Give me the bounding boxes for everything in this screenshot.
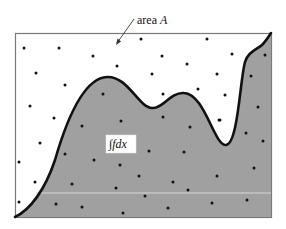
sample-point bbox=[29, 105, 32, 108]
sample-point bbox=[92, 55, 95, 58]
area-label: area A bbox=[137, 13, 168, 27]
sample-point bbox=[211, 202, 214, 205]
monte-carlo-diagram: ∫fdx area A bbox=[0, 0, 286, 229]
sample-point bbox=[122, 212, 125, 215]
sample-point bbox=[151, 73, 154, 76]
sample-point bbox=[167, 207, 170, 210]
sample-point bbox=[264, 54, 267, 57]
sample-point bbox=[34, 181, 37, 184]
sample-point bbox=[183, 151, 186, 154]
sample-point bbox=[58, 47, 61, 50]
sample-point bbox=[216, 73, 219, 76]
sample-point bbox=[18, 161, 21, 164]
sample-point bbox=[161, 55, 164, 58]
sample-point bbox=[253, 167, 256, 170]
sample-point bbox=[172, 181, 175, 184]
sample-point bbox=[231, 53, 234, 56]
sample-point bbox=[224, 94, 227, 97]
sample-point bbox=[140, 38, 143, 41]
sample-point bbox=[219, 119, 222, 122]
sample-point bbox=[144, 195, 147, 198]
sample-point bbox=[81, 125, 84, 128]
sample-point bbox=[148, 150, 151, 153]
sample-point bbox=[246, 199, 249, 202]
sample-point bbox=[186, 63, 189, 66]
sample-point bbox=[162, 93, 165, 96]
sample-point bbox=[116, 65, 119, 68]
sample-point bbox=[245, 132, 248, 135]
integral-label: ∫fdx bbox=[108, 137, 128, 151]
sample-point bbox=[71, 183, 74, 186]
sample-point bbox=[250, 75, 253, 78]
sample-point bbox=[257, 106, 260, 109]
sample-point bbox=[119, 164, 122, 167]
sample-point bbox=[197, 88, 200, 91]
sample-point bbox=[64, 153, 67, 156]
sample-point bbox=[187, 189, 190, 192]
sample-point bbox=[162, 116, 165, 119]
sample-point bbox=[23, 47, 26, 50]
sample-point bbox=[35, 72, 38, 75]
sample-point bbox=[39, 142, 42, 145]
sample-point bbox=[93, 159, 96, 162]
sample-point bbox=[138, 175, 141, 178]
sample-point bbox=[262, 140, 265, 143]
sample-point bbox=[64, 84, 67, 87]
integral-label-box: ∫fdx bbox=[106, 135, 136, 153]
sample-point bbox=[55, 203, 58, 206]
sample-point bbox=[206, 38, 209, 41]
sample-point bbox=[18, 201, 21, 204]
sample-point bbox=[53, 117, 56, 120]
sample-point bbox=[115, 187, 118, 190]
sample-point bbox=[102, 93, 105, 96]
sample-point bbox=[189, 126, 192, 129]
sample-point bbox=[120, 120, 123, 123]
sample-point bbox=[216, 175, 219, 178]
sample-point bbox=[81, 206, 84, 209]
